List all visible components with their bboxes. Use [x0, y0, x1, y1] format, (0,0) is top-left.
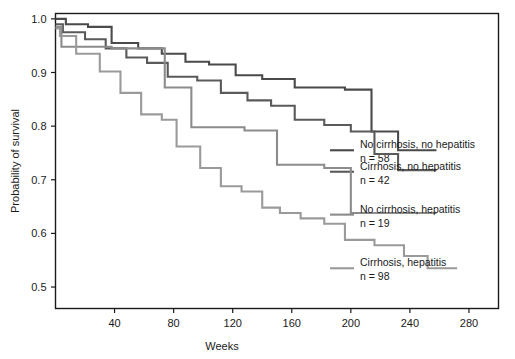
- x-tick-label: 40: [108, 317, 120, 329]
- legend-series-count: n = 19: [360, 217, 390, 229]
- legend-series-name: Cirrhosis, hepatitis: [360, 256, 446, 268]
- legend-item: No cirrhosis, hepatitisn = 19: [360, 203, 460, 229]
- x-axis-title: Weeks: [205, 340, 239, 352]
- x-tick-label: 280: [460, 317, 478, 329]
- legend-series-count: n = 42: [360, 174, 390, 186]
- y-axis: 0.50.60.70.80.91.0: [31, 13, 55, 293]
- legend-series-name: Cirrhosis, no hepatitis: [360, 160, 461, 172]
- x-tick-label: 200: [342, 317, 360, 329]
- y-tick-label: 0.7: [31, 174, 46, 186]
- x-tick-label: 80: [168, 317, 180, 329]
- x-tick-label: 160: [283, 317, 301, 329]
- survival-chart: 4080120160200240280Weeks0.50.60.70.80.91…: [0, 0, 515, 359]
- x-tick-label: 120: [224, 317, 242, 329]
- y-tick-label: 1.0: [31, 13, 46, 25]
- y-axis-title: Probability of survival: [9, 109, 21, 213]
- legend-series-name: No cirrhosis, no hepatitis: [360, 138, 475, 150]
- y-tick-label: 0.8: [31, 120, 46, 132]
- x-tick-label: 240: [401, 317, 419, 329]
- y-tick-label: 0.5: [31, 281, 46, 293]
- x-axis: 4080120160200240280: [108, 309, 478, 329]
- y-tick-label: 0.6: [31, 227, 46, 239]
- y-tick-label: 0.9: [31, 67, 46, 79]
- legend-item: Cirrhosis, no hepatitisn = 42: [360, 160, 461, 186]
- legend-series-name: No cirrhosis, hepatitis: [360, 203, 460, 215]
- legend-series-count: n = 98: [360, 270, 390, 282]
